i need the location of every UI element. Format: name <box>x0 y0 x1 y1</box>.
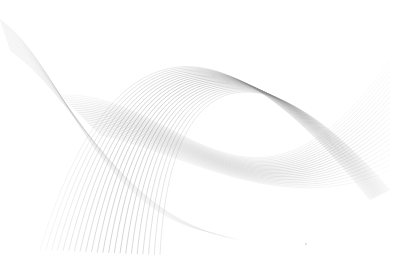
wave-line <box>4 32 216 234</box>
wave-artwork <box>0 0 404 270</box>
wave-line <box>3 28 211 233</box>
small-dot <box>305 243 307 245</box>
wave-lines-graphic <box>0 0 404 270</box>
